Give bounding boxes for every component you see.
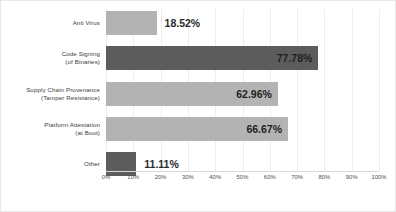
category-label-line: (at Boot) [1, 129, 100, 137]
x-tick-label: 30% [182, 174, 194, 180]
category-label: Other [1, 160, 100, 168]
bar-value-label: 77.78% [277, 46, 313, 70]
bar-chart: 18.52%77.78%62.96%66.67%11.11% Anti Viru… [0, 0, 396, 212]
bar-value-label: 11.11% [144, 152, 178, 176]
category-label-line: Platform Attestation [1, 121, 100, 129]
bar-value-label: 18.52% [165, 11, 201, 35]
x-tick-label: 40% [209, 174, 221, 180]
bar-row: 77.78% [106, 46, 379, 70]
x-tick-label: 80% [318, 174, 330, 180]
bar-value-label: 66.67% [246, 117, 282, 141]
category-label-line: Anti Virus [1, 19, 100, 27]
category-label: Platform Attestation(at Boot) [1, 121, 100, 137]
category-label: Code Signing(of Binaries) [1, 50, 100, 66]
plot-area: 18.52%77.78%62.96%66.67%11.11% [106, 9, 379, 171]
bar-row: 18.52% [106, 11, 379, 35]
category-label: Anti Virus [1, 19, 100, 27]
x-tick-label: 90% [346, 174, 358, 180]
bar-1[interactable] [106, 11, 157, 35]
x-tick-label: 20% [155, 174, 167, 180]
x-tick-label: 50% [237, 174, 249, 180]
bar-row: 66.67% [106, 117, 379, 141]
category-label-line: (Tamper Resistance) [1, 94, 100, 102]
bar-5[interactable] [106, 152, 136, 176]
category-label-line: Code Signing [1, 50, 100, 58]
axis-baseline [106, 171, 379, 172]
gridline-100 [379, 9, 380, 171]
x-tick-label: 60% [264, 174, 276, 180]
category-label-line: (of Binaries) [1, 58, 100, 66]
x-tick-label: 10% [127, 174, 139, 180]
category-label-line: Supply Chain Provenance [1, 86, 100, 94]
category-label-line: Other [1, 160, 100, 168]
bar-value-label: 62.96% [236, 82, 272, 106]
x-axis-tick-labels: 0%10%20%30%40%50%60%70%80%90%100% [106, 174, 379, 188]
x-tick-label: 70% [291, 174, 303, 180]
x-tick-label: 0% [102, 174, 111, 180]
bar-row: 62.96% [106, 82, 379, 106]
x-tick-label: 100% [371, 174, 386, 180]
bar-row: 11.11% [106, 152, 379, 176]
category-label: Supply Chain Provenance(Tamper Resistanc… [1, 86, 100, 102]
